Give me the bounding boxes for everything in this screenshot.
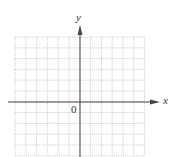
coordinate-grid-diagram — [0, 0, 177, 157]
x-axis-label: x — [163, 94, 168, 106]
y-axis-label: y — [76, 11, 81, 23]
y-axis-arrow-icon — [78, 25, 83, 35]
origin-label: 0 — [71, 103, 77, 115]
x-axis-arrow-icon — [150, 100, 160, 105]
